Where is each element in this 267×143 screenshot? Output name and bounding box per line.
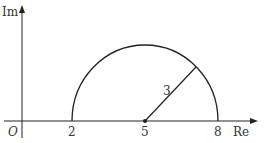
complex-plane-diagram: Im Re O 2 5 8 3 [0, 0, 267, 143]
tick-label-8: 8 [214, 125, 222, 139]
center-point [143, 119, 147, 123]
y-axis-label: Im [2, 5, 19, 19]
tick-label-5: 5 [141, 125, 149, 139]
origin-label: O [8, 125, 18, 139]
semicircle-arc [72, 45, 218, 121]
x-axis-label: Re [233, 125, 249, 139]
tick-label-2: 2 [68, 125, 76, 139]
imaginary-axis-arrow-icon [19, 5, 25, 13]
radius-label: 3 [163, 84, 171, 98]
real-axis-arrow-icon [250, 118, 258, 124]
